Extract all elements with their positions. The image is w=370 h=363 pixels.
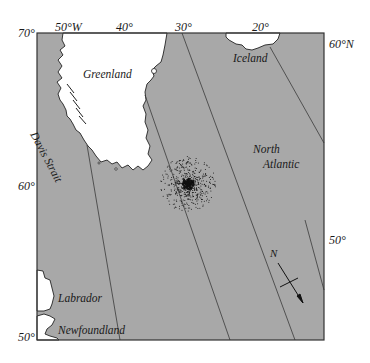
label-iceland: Iceland <box>233 53 267 65</box>
label-newfoundland: Newfoundland <box>58 325 125 337</box>
label-greenland: Greenland <box>83 69 132 81</box>
tick-left-60: 60° <box>18 180 35 192</box>
label-atlantic: Atlantic <box>263 159 299 171</box>
tick-top-30: 30° <box>175 21 192 33</box>
tick-left-50: 50° <box>18 331 35 343</box>
tick-top-left-70: 70° <box>18 27 35 39</box>
label-labrador: Labrador <box>58 293 102 305</box>
tick-right-60n: 60°N <box>329 38 354 50</box>
tick-top-50w: 50°W <box>55 21 82 33</box>
tick-right-50: 50° <box>329 234 346 246</box>
label-north: North <box>253 144 280 156</box>
tick-top-20: 20° <box>252 21 269 33</box>
tick-top-40: 40° <box>116 21 133 33</box>
compass-n-label: N <box>270 248 277 259</box>
